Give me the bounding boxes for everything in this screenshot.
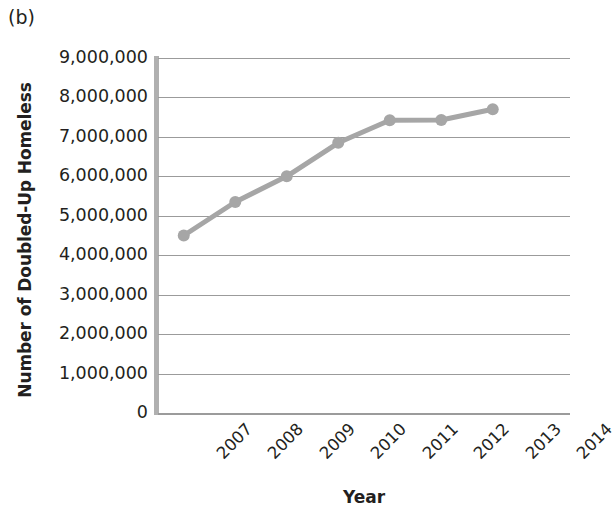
line-series [158,58,570,413]
x-axis-tick-label: 2013 [523,421,564,462]
x-axis-tick-label: 2011 [420,421,461,462]
y-axis-tick-label: 5,000,000 [0,207,148,225]
y-axis-tick-label: 3,000,000 [0,286,148,304]
data-point-marker [281,170,293,182]
data-point-marker [384,114,396,126]
x-axis-tick-label: 2007 [214,421,255,462]
x-axis-title: Year [158,487,570,507]
x-axis-tick-label: 2014 [575,421,616,462]
y-axis-tick-label: 2,000,000 [0,325,148,343]
data-point-marker [435,114,447,126]
y-axis-tick-labels: 9,000,0008,000,0007,000,0006,000,0005,00… [0,0,148,520]
x-axis-tick-label: 2010 [369,421,410,462]
x-axis-tick-labels: 20072008200920102011201220132014 [158,413,570,483]
data-point-marker [178,230,190,242]
x-axis-tick-label: 2012 [472,421,513,462]
x-axis-tick-label: 2009 [317,421,358,462]
y-axis-tick-label: 8,000,000 [0,89,148,107]
y-axis-tick-label: 7,000,000 [0,128,148,146]
y-axis-tick-label: 0 [0,404,148,422]
x-axis-tick-label: 2008 [266,421,307,462]
y-axis-tick-label: 4,000,000 [0,246,148,264]
y-axis-tick-label: 1,000,000 [0,365,148,383]
y-axis-tick-label: 6,000,000 [0,168,148,186]
data-point-marker [229,196,241,208]
y-axis-tick-label: 9,000,000 [0,49,148,67]
series-line [184,109,493,235]
plot-area [158,58,570,413]
data-point-marker [332,137,344,149]
data-point-marker [487,103,499,115]
